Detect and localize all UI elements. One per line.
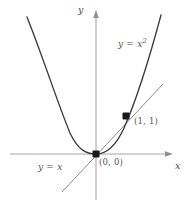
- parabola-equation-exponent: 2: [142, 37, 146, 45]
- plot-canvas: [0, 0, 191, 206]
- y-axis-arrowhead: [93, 10, 99, 18]
- parabola-curve: [27, 15, 161, 154]
- parabola-equation-base: y = x: [118, 39, 142, 49]
- point-label-origin: (0, 0): [99, 158, 123, 167]
- function-graph-figure: y x y = x2 y = x (1, 1) (0, 0): [0, 0, 191, 206]
- point-marker-one-one: [123, 113, 130, 120]
- point-label-one-one: (1, 1): [134, 117, 158, 126]
- y-axis-label: y: [78, 5, 84, 15]
- parabola-equation-label: y = x2: [118, 38, 147, 49]
- identity-line: [62, 84, 163, 192]
- x-axis-label: x: [175, 161, 181, 171]
- x-axis-arrowhead: [165, 151, 173, 157]
- identity-line-equation-label: y = x: [38, 163, 62, 172]
